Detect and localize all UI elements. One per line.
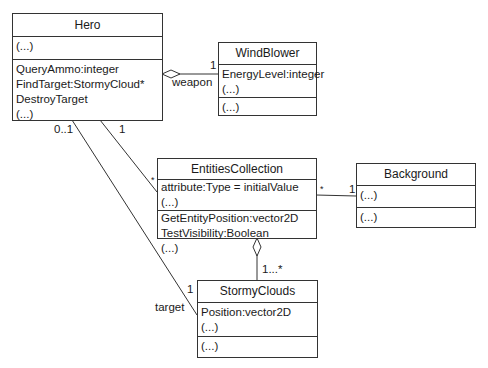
multiplicity-hero-stormy-source: 0..1 [54,123,73,135]
class-background: Background (...) (...) [356,163,476,228]
class-name: Background [357,164,475,186]
operations: QueryAmmo:integer FindTarget:StormyCloud… [13,59,162,124]
attributes: (...) [357,186,475,207]
operations: (...) [219,97,316,117]
multiplicity-entities-background-target: 1 [349,183,355,195]
operations: GetEntityPosition:vector2D TestVisibilit… [158,210,316,258]
multiplicity-hero-stormy-target: 1 [187,283,193,295]
multiplicity-hero-entities-target: * [151,175,155,185]
hero-entities-link [100,120,157,192]
class-name: WindBlower [219,43,316,65]
attributes: attribute:Type = initialValue (...) [158,180,316,210]
multiplicity-hero-entities-source: 1 [119,123,125,135]
attributes: (...) [13,37,162,59]
class-hero: Hero (...) QueryAmmo:integer FindTarget:… [12,13,163,121]
operations: (...) [357,207,475,227]
operations: (...) [198,336,317,356]
entities-background-link [316,195,356,196]
class-stormy-clouds: StormyClouds Position:vector2D (...) (..… [197,280,318,358]
class-name: Hero [13,14,162,37]
multiplicity-windblower: 1 [210,59,216,71]
class-windblower: WindBlower EnergyLevel:integer (...) (..… [218,42,317,116]
class-name: StormyClouds [198,281,317,303]
role-weapon: weapon [172,76,212,88]
role-target: target [155,301,184,313]
multiplicity-entities-stormy: 1...* [262,263,282,275]
class-name: EntitiesCollection [158,159,316,180]
attributes: EnergyLevel:integer (...) [219,65,316,97]
class-entities-collection: EntitiesCollection attribute:Type = init… [157,158,317,239]
attributes: Position:vector2D (...) [198,303,317,336]
multiplicity-entities-background-source: * [320,184,324,194]
